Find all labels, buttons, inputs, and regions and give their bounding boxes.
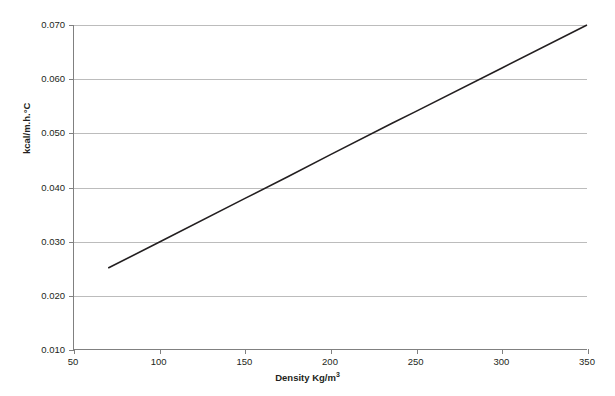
x-axis-tick: [417, 349, 418, 354]
x-axis-tick-label: 100: [134, 357, 184, 367]
x-axis-tick-label: 250: [391, 357, 441, 367]
plot-area: [73, 25, 587, 350]
x-axis-tick: [160, 349, 161, 354]
y-axis-title: kcal/m.h.°C: [21, 140, 32, 154]
x-axis-title: Density Kg/m3: [0, 372, 615, 383]
x-axis-tick: [245, 349, 246, 354]
x-axis-tick: [502, 349, 503, 354]
x-axis-tick: [331, 349, 332, 354]
y-axis-tick-label: 0.010: [25, 345, 65, 355]
data-line-svg: [74, 25, 587, 349]
x-axis-title-superscript: 3: [336, 371, 340, 378]
y-axis-tick-label: 0.070: [25, 20, 65, 30]
x-axis-tick: [588, 349, 589, 354]
y-axis-tick-label: 0.060: [25, 74, 65, 84]
x-axis-tick-label: 50: [48, 357, 98, 367]
x-axis-tick-label: 300: [476, 357, 526, 367]
x-axis-tick: [74, 349, 75, 354]
x-axis-tick-label: 150: [219, 357, 269, 367]
chart-container: 0.0100.0200.0300.0400.0500.0600.070 kcal…: [0, 0, 615, 396]
y-axis-tick-label: 0.020: [25, 291, 65, 301]
x-axis-title-base: Density Kg/m: [275, 372, 336, 383]
y-axis-tick-label: 0.040: [25, 183, 65, 193]
y-axis-tick-label: 0.030: [25, 237, 65, 247]
data-series-line: [108, 25, 587, 268]
x-axis-tick-label: 350: [562, 357, 612, 367]
x-axis-tick-label: 200: [305, 357, 355, 367]
